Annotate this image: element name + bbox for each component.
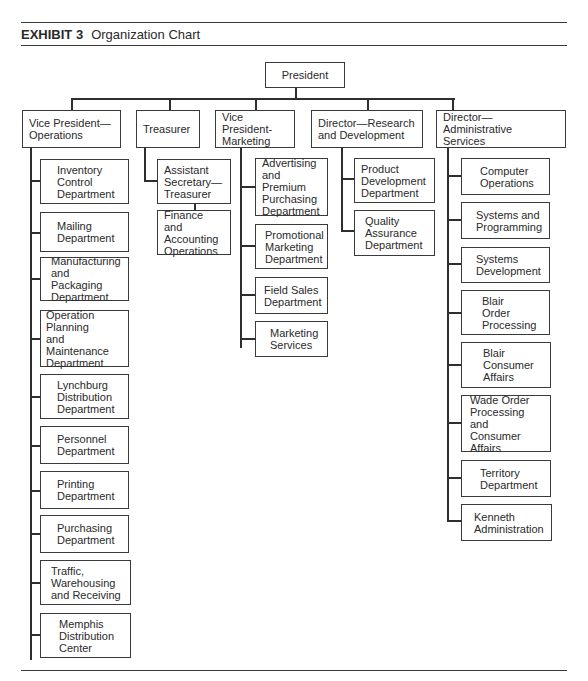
node-label: Marketing Services bbox=[270, 327, 321, 351]
node-label: Purchasing Department bbox=[57, 522, 122, 546]
node-label: Wade Order Processing and Consumer Affai… bbox=[470, 394, 544, 454]
node-label: Field Sales Department bbox=[264, 284, 321, 308]
node-label: Director—Research and Development bbox=[318, 117, 416, 141]
connector bbox=[30, 180, 40, 182]
node-label: Manufacturing and Packaging Department bbox=[51, 255, 122, 303]
node-blair-consumer-affairs: Blair Consumer Affairs bbox=[461, 342, 551, 388]
node-marketing-services: Marketing Services bbox=[255, 321, 328, 357]
node-wade-order-processing: Wade Order Processing and Consumer Affai… bbox=[461, 395, 551, 452]
title-rule bbox=[21, 45, 567, 46]
node-president: President bbox=[265, 62, 345, 88]
exhibit-caption: Organization Chart bbox=[91, 27, 200, 42]
node-label: Finance and Accounting Operations bbox=[164, 209, 224, 257]
node-traffic: Traffic, Warehousing and Receiving bbox=[40, 560, 131, 605]
bottom-rule bbox=[21, 670, 567, 671]
node-finance-accounting: Finance and Accounting Operations bbox=[157, 210, 231, 255]
node-label: Vice President— Operations bbox=[29, 117, 114, 141]
connector bbox=[240, 148, 242, 348]
connector bbox=[30, 582, 40, 584]
node-vp-operations: Vice President— Operations bbox=[22, 110, 121, 148]
connector bbox=[341, 230, 354, 232]
node-label: President bbox=[282, 69, 328, 81]
node-mailing: Mailing Department bbox=[40, 212, 129, 252]
connector bbox=[447, 477, 461, 479]
top-rule bbox=[21, 22, 567, 23]
node-field-sales: Field Sales Department bbox=[255, 277, 328, 314]
node-label: Quality Assurance Department bbox=[365, 215, 428, 251]
node-label: Blair Consumer Affairs bbox=[483, 347, 544, 383]
connector bbox=[341, 148, 343, 232]
connector bbox=[447, 520, 461, 522]
node-label: Printing Department bbox=[57, 478, 122, 502]
node-systems-programming: Systems and Programming bbox=[461, 202, 550, 239]
node-inventory-control: Inventory Control Department bbox=[40, 159, 129, 204]
node-label: Computer Operations bbox=[480, 165, 543, 189]
connector bbox=[30, 232, 40, 234]
node-systems-development: Systems Development bbox=[461, 247, 550, 283]
exhibit-number: EXHIBIT 3 bbox=[21, 27, 83, 42]
node-label: Promotional Marketing Department bbox=[265, 229, 321, 265]
node-product-development: Product Development Department bbox=[354, 158, 435, 203]
connector bbox=[253, 98, 455, 100]
node-label: Mailing Department bbox=[57, 220, 122, 244]
node-memphis: Memphis Distribution Center bbox=[40, 613, 131, 658]
connector bbox=[240, 294, 255, 296]
node-personnel: Personnel Department bbox=[40, 426, 129, 464]
node-label: Advertising and Premium Purchasing Depar… bbox=[262, 157, 321, 217]
node-vp-marketing: Vice President- Marketing bbox=[215, 110, 295, 148]
node-label: Systems and Programming bbox=[476, 209, 543, 233]
node-operation-planning: Operation Planning and Maintenance Depar… bbox=[40, 310, 129, 367]
connector bbox=[240, 245, 255, 247]
connector bbox=[144, 180, 158, 182]
connector bbox=[341, 178, 354, 180]
connector bbox=[30, 634, 40, 636]
node-assistant-secretary: Assistant Secretary— Treasurer bbox=[157, 159, 231, 204]
node-label: Memphis Distribution Center bbox=[59, 618, 124, 654]
node-director-rnd: Director—Research and Development bbox=[311, 110, 423, 148]
connector bbox=[240, 338, 255, 340]
connector bbox=[447, 364, 461, 366]
exhibit-title: EXHIBIT 3Organization Chart bbox=[21, 27, 200, 42]
node-label: Product Development Department bbox=[361, 163, 428, 199]
node-label: Treasurer bbox=[143, 123, 193, 135]
node-promotional-marketing: Promotional Marketing Department bbox=[255, 224, 328, 269]
node-label: Traffic, Warehousing and Receiving bbox=[51, 565, 124, 601]
connector bbox=[30, 490, 40, 492]
node-label: Blair Order Processing bbox=[482, 295, 543, 331]
node-label: Operation Planning and Maintenance Depar… bbox=[46, 309, 122, 369]
node-label: Vice President- Marketing bbox=[222, 111, 288, 147]
connector bbox=[30, 278, 40, 280]
node-label: Inventory Control Department bbox=[57, 164, 122, 200]
connector bbox=[30, 533, 40, 535]
connector bbox=[30, 338, 40, 340]
node-quality-assurance: Quality Assurance Department bbox=[354, 210, 435, 256]
connector bbox=[240, 186, 255, 188]
node-manufacturing: Manufacturing and Packaging Department bbox=[40, 257, 129, 301]
connector bbox=[447, 175, 461, 177]
connector bbox=[447, 263, 461, 265]
node-director-admin: Director—Administrative Services bbox=[436, 110, 566, 148]
connector bbox=[447, 422, 461, 424]
connector bbox=[447, 312, 461, 314]
connector bbox=[71, 98, 255, 100]
node-printing: Printing Department bbox=[40, 471, 129, 509]
node-purchasing: Purchasing Department bbox=[40, 515, 129, 553]
connector bbox=[447, 148, 449, 521]
node-kenneth-administration: Kenneth Administration bbox=[461, 504, 552, 541]
node-label: Personnel Department bbox=[57, 433, 122, 457]
node-label: Kenneth Administration bbox=[474, 511, 545, 535]
connector bbox=[30, 396, 40, 398]
node-advertising: Advertising and Premium Purchasing Depar… bbox=[255, 158, 328, 216]
node-treasurer: Treasurer bbox=[136, 110, 200, 148]
connector bbox=[144, 148, 146, 182]
node-territory: Territory Department bbox=[461, 460, 551, 497]
node-label: Director—Administrative Services bbox=[443, 111, 559, 147]
connector bbox=[447, 219, 461, 221]
node-computer-operations: Computer Operations bbox=[461, 158, 550, 195]
node-label: Assistant Secretary— Treasurer bbox=[164, 164, 224, 200]
node-label: Systems Development bbox=[476, 253, 543, 277]
node-lynchburg: Lynchburg Distribution Department bbox=[40, 374, 129, 419]
node-label: Territory Department bbox=[480, 467, 544, 491]
connector bbox=[30, 445, 40, 447]
node-label: Lynchburg Distribution Department bbox=[57, 379, 122, 415]
